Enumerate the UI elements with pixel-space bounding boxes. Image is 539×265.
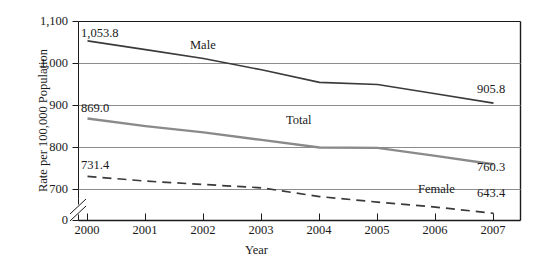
series-line-male xyxy=(88,41,494,103)
x-tick-label-2001: 2001 xyxy=(121,224,169,237)
series-label-total: Total xyxy=(286,114,312,127)
x-tick-label-2006: 2006 xyxy=(411,224,459,237)
series-label-female: Female xyxy=(418,183,455,196)
y-tick-label-0: 0 xyxy=(22,214,68,226)
x-tick-label-2007: 2007 xyxy=(469,224,517,237)
x-tick-label-2004: 2004 xyxy=(295,224,343,237)
x-tick-label-2000: 2000 xyxy=(63,224,111,237)
male-start-value-label: 1,053.8 xyxy=(81,27,119,40)
total-end-value-label: 760.3 xyxy=(477,161,505,174)
total-start-value-label: 869.0 xyxy=(81,102,109,115)
line-chart-figure: Rate per 100,000 Population 1,100 1,000 … xyxy=(0,0,539,265)
x-tick-label-2002: 2002 xyxy=(179,224,227,237)
y-tick-label-900: 900 xyxy=(22,99,68,111)
x-axis xyxy=(79,214,521,221)
x-tick-label-2003: 2003 xyxy=(237,224,285,237)
x-tick-label-2005: 2005 xyxy=(353,224,401,237)
y-axis-ticks xyxy=(73,22,79,221)
female-start-value-label: 731.4 xyxy=(81,159,109,172)
series-label-male: Male xyxy=(190,39,216,52)
axis-break-marker xyxy=(70,199,86,222)
male-end-value-label: 905.8 xyxy=(477,83,505,96)
y-tick-label-700: 700 xyxy=(22,183,68,195)
y-tick-label-1100: 1,100 xyxy=(22,15,68,27)
y-tick-label-800: 800 xyxy=(22,141,68,153)
x-axis-title: Year xyxy=(245,243,268,258)
y-tick-label-1000: 1,000 xyxy=(22,57,68,69)
female-end-value-label: 643.4 xyxy=(477,187,505,200)
